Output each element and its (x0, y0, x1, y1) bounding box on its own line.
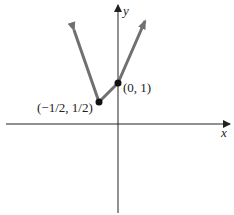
graph-canvas: y x (−1/2, 1/2) (0, 1) (0, 0, 234, 215)
x-axis-label: x (220, 125, 227, 140)
y-axis-label: y (121, 3, 129, 18)
vertex-label: (−1/2, 1/2) (37, 100, 93, 115)
vertex-point (96, 99, 103, 106)
intercept-label: (0, 1) (123, 80, 151, 95)
y-intercept-point (115, 80, 122, 87)
graph-figure: y x (−1/2, 1/2) (0, 1) (0, 0, 234, 215)
